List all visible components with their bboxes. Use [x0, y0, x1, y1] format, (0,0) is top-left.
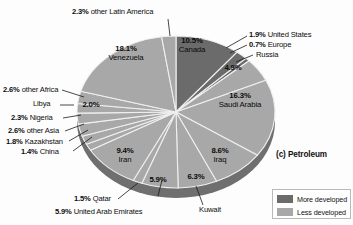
label-kuwait-name: Kuwait [199, 205, 221, 214]
slice-label-iran: 9.4% Iran [106, 146, 144, 164]
slice-label-venezuela-name: Venezuela [97, 53, 155, 62]
slice-label-russia-pct-value: 4.9% [216, 63, 250, 72]
label-qatar-name: Qatar [91, 194, 111, 203]
label-united-states-name: United States [266, 30, 312, 39]
label-united-states-pct: 1.9% [249, 30, 266, 39]
label-other-latin-america: 2.3% other Latin America [72, 8, 153, 17]
label-europe: 0.7% Europe [249, 41, 291, 50]
label-united-states: 1.9% United States [249, 31, 311, 40]
slice-label-iraq-pct: 8.6% [201, 146, 239, 155]
slice-label-iran-pct: 9.4% [106, 146, 144, 155]
slice-label-libya-pct-value: 2.0% [76, 100, 106, 109]
label-united-arab-emirates: 5.9% United Arab Emirates [55, 208, 142, 217]
label-other-africa-name: other Africa [20, 85, 59, 94]
label-russia: Russia [256, 51, 278, 60]
label-nigeria-pct: 2.3% [11, 113, 28, 122]
label-russia-name: Russia [256, 50, 278, 59]
legend-label-less-developed: Less developed [297, 208, 346, 217]
label-other-asia-pct: 2.6% [8, 126, 25, 135]
label-china: 1.4% China [21, 148, 59, 157]
slice-label-canada: 10.5% Canada [168, 36, 216, 54]
chart-caption: (c) Petroleum [276, 150, 327, 159]
slice-label-kuwait-pct: 6.3% [179, 172, 213, 181]
label-libya: Libya [33, 100, 50, 109]
legend-swatch-more-developed [277, 195, 293, 203]
slice-label-russia-pct: 4.9% [216, 63, 250, 72]
slice-label-kuwait-pct-value: 6.3% [179, 172, 213, 181]
label-other-latin-america-name: other Latin America [89, 7, 154, 16]
label-other-africa: 2.6% other Africa [3, 86, 58, 95]
slice-label-libya-pct: 2.0% [76, 100, 106, 109]
slice-label-uae-pct-value: 5.9% [141, 175, 175, 184]
slice-label-uae-pct: 5.9% [141, 175, 175, 184]
label-europe-name: Europe [266, 40, 292, 49]
label-nigeria: 2.3% Nigeria [11, 114, 53, 123]
label-nigeria-name: Nigeria [28, 113, 53, 122]
slice-label-iraq: 8.6% Iraq [201, 146, 239, 164]
label-europe-pct: 0.7% [249, 40, 266, 49]
label-kazakhstan-pct: 1.8% [6, 137, 23, 146]
legend-item-more-developed: More developed [277, 193, 347, 205]
legend-item-less-developed: Less developed [277, 206, 347, 218]
slice-label-venezuela-pct: 18.1% [97, 44, 155, 53]
slice-label-iran-name: Iran [106, 155, 144, 164]
label-other-asia-name: other Asia [25, 126, 59, 135]
legend-label-more-developed: More developed [297, 195, 347, 204]
slice-label-saudi-arabia-name: Saudi Arabia [207, 100, 273, 109]
label-china-pct: 1.4% [21, 147, 38, 156]
legend-swatch-less-developed [277, 208, 293, 216]
label-kuwait: Kuwait [199, 206, 221, 215]
label-other-africa-pct: 2.6% [3, 85, 20, 94]
label-other-asia: 2.6% other Asia [8, 127, 59, 136]
label-kazakhstan-name: Kazakhstan [23, 137, 63, 146]
slice-label-canada-name: Canada [168, 45, 216, 54]
slice-label-iraq-name: Iraq [201, 155, 239, 164]
pie-chart-figure: 2.3% other Latin America 1.9% United Sta… [0, 0, 353, 225]
label-kazakhstan: 1.8% Kazakhstan [6, 138, 63, 147]
slice-label-saudi-arabia: 16.3% Saudi Arabia [207, 91, 273, 109]
label-other-latin-america-pct: 2.3% [72, 7, 89, 16]
label-united-arab-emirates-name: United Arab Emirates [72, 207, 143, 216]
label-qatar: 1.5% Qatar [74, 195, 111, 204]
legend: More developed Less developed [272, 189, 351, 219]
label-qatar-pct: 1.5% [74, 194, 91, 203]
label-united-arab-emirates-pct: 5.9% [55, 207, 72, 216]
slice-label-saudi-arabia-pct: 16.3% [207, 91, 273, 100]
label-libya-name: Libya [33, 99, 50, 108]
label-china-name: China [38, 147, 59, 156]
slice-label-canada-pct: 10.5% [168, 36, 216, 45]
slice-label-venezuela: 18.1% Venezuela [97, 44, 155, 62]
